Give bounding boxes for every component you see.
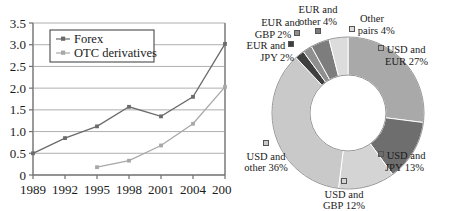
pie-label-usd-eur: USD and EUR 27% <box>378 44 428 67</box>
x-tick-label-2007: 2007 <box>212 182 232 197</box>
series-line-otc-derivatives <box>97 87 225 167</box>
pie-label-other-pairs-line2: pairs 4% <box>358 25 395 36</box>
pie-label-eur-other: EUR and other 4% <box>287 4 349 39</box>
data-point-marker <box>191 95 195 99</box>
x-tick-label-1995: 1995 <box>84 182 110 197</box>
y-tick-label-2-5: 2.5 <box>10 59 26 74</box>
data-point-marker <box>127 105 131 109</box>
data-point-marker <box>159 144 163 148</box>
pie-label-usd-eur-line2: EUR 27% <box>385 56 428 67</box>
pie-label-eur-other-line1: EUR and <box>299 4 338 15</box>
legend-label-otc-derivatives: OTC derivatives <box>74 46 157 60</box>
data-point-marker <box>127 159 131 163</box>
pie-swatch-usd-other <box>263 140 269 146</box>
legend-label-forex: Forex <box>74 32 104 46</box>
pie-swatch-eur-other <box>315 28 321 34</box>
y-tick-label-0-5: 0.5 <box>10 146 26 161</box>
pie-label-usd-eur-line1: USD and <box>387 44 426 55</box>
data-point-marker <box>31 151 35 155</box>
data-point-marker <box>223 85 227 89</box>
line-chart: 3.5 3.0 2.5 2.0 1.5 1.0 0.5 0 1989 1992 … <box>0 0 232 211</box>
pie-label-usd-other-line1: USD and <box>247 151 286 162</box>
pie-label-usd-other-line2: other 36% <box>244 162 287 173</box>
y-tick-label-3-5: 3.5 <box>10 16 26 31</box>
figure-container: 3.5 3.0 2.5 2.0 1.5 1.0 0.5 0 1989 1992 … <box>0 0 465 211</box>
data-point-marker <box>63 136 67 140</box>
pie-swatch-usd-eur <box>378 45 384 51</box>
pie-label-eur-gbp-line2: GBP 2% <box>255 29 292 40</box>
pie-inner-outline <box>310 75 386 151</box>
pie-label-eur-jpy: EUR and JPY 2% <box>232 40 294 63</box>
y-tick-label-2-0: 2.0 <box>10 81 26 96</box>
data-point-marker <box>159 114 163 118</box>
pie-swatch-usd-gbp <box>341 178 347 184</box>
pie-label-usd-gbp-line1: USD and <box>325 189 364 200</box>
data-point-marker <box>95 124 99 128</box>
x-tick-label-2001: 2001 <box>148 182 174 197</box>
pie-label-usd-jpy-line1: USD and <box>387 150 426 161</box>
pie-label-usd-jpy-line2: JPY 13% <box>385 162 424 173</box>
y-tick-label-3-0: 3.0 <box>10 37 26 52</box>
pie-label-other-pairs-line1: Other <box>360 13 384 24</box>
pie-label-usd-gbp-line2: GBP 12% <box>323 200 365 211</box>
pie-label-usd-gbp: USD and GBP 12% <box>314 177 374 211</box>
data-point-marker <box>191 122 195 126</box>
pie-swatch-usd-jpy <box>378 151 384 157</box>
pie-label-eur-other-line2: other 4% <box>299 16 337 27</box>
data-point-marker <box>95 165 99 169</box>
pie-swatch-other-pairs <box>349 26 355 32</box>
x-tick-label-1998: 1998 <box>116 182 142 197</box>
pie-label-eur-jpy-line2: JPY 2% <box>260 52 294 63</box>
y-tick-label-0: 0 <box>20 168 27 183</box>
pie-label-other-pairs: Other pairs 4% <box>344 13 400 36</box>
x-tick-label-1989: 1989 <box>20 182 46 197</box>
doughnut-chart: USD and EUR 27% USD and JPY 13% USD and … <box>232 0 465 211</box>
data-point-marker <box>223 42 227 46</box>
x-tick-label-2004: 2004 <box>180 182 207 197</box>
legend: Forex OTC derivatives <box>50 30 157 62</box>
pie-label-eur-jpy-line1: EUR and <box>247 40 286 51</box>
line-chart-svg: 3.5 3.0 2.5 2.0 1.5 1.0 0.5 0 1989 1992 … <box>0 0 232 211</box>
x-tick-label-1992: 1992 <box>52 182 78 197</box>
y-tick-label-1-5: 1.5 <box>10 102 26 117</box>
y-tick-label-1-0: 1.0 <box>10 124 26 139</box>
pie-label-usd-jpy: USD and JPY 13% <box>378 150 425 173</box>
pie-swatch-eur-jpy <box>288 41 294 47</box>
pie-label-usd-other: USD and other 36% <box>235 139 297 174</box>
